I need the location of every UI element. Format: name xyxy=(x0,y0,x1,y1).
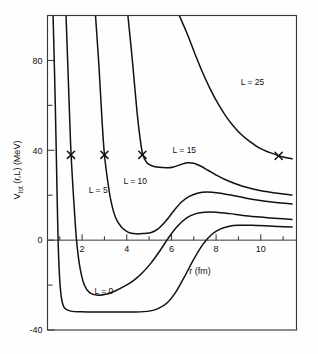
curve-label-l-0: L = 0 xyxy=(94,286,113,296)
y-axis-title: Vtot (r,L) (MeV) xyxy=(12,141,24,200)
x-tick-label: 2 xyxy=(80,244,85,254)
x-axis-tick-labels: 246810 xyxy=(80,244,266,254)
plot-frame xyxy=(48,16,297,331)
curve-label-l-5: L = 5 xyxy=(89,185,108,195)
curve-l-0 xyxy=(53,16,292,313)
curve-labels: L = 0L = 5L = 10L = 15L = 25 xyxy=(89,77,265,296)
chart-figure: 80400-40 246810 L = 0L = 5L = 10L = 15L … xyxy=(0,0,318,354)
potential-curves xyxy=(53,16,292,313)
curve-l-25 xyxy=(179,16,292,159)
x-tick-label: 6 xyxy=(169,244,174,254)
y-tick-label: 0 xyxy=(37,235,42,245)
x-tick-label: 4 xyxy=(124,244,129,254)
x-axis-title: r (fm) xyxy=(189,266,211,276)
y-tick-label: -40 xyxy=(29,325,42,335)
x-tick-label: 10 xyxy=(256,244,266,254)
curve-l-10 xyxy=(96,16,293,234)
y-tick-label: 40 xyxy=(32,146,42,156)
potential-energy-chart: 80400-40 246810 L = 0L = 5L = 10L = 15L … xyxy=(0,0,318,354)
curve-label-l-25: L = 25 xyxy=(241,77,265,87)
curve-label-l-10: L = 10 xyxy=(123,176,147,186)
curve-l-15 xyxy=(128,16,292,195)
x-axis-ticks xyxy=(60,234,283,240)
y-axis-tick-labels: 80400-40 xyxy=(29,56,42,336)
curve-label-l-15: L = 15 xyxy=(173,145,197,155)
y-axis-title-text: Vtot (r,L) (MeV) xyxy=(12,141,24,200)
x-tick-label: 8 xyxy=(214,244,219,254)
y-tick-label: 80 xyxy=(32,56,42,66)
y-axis-ticks xyxy=(48,60,55,330)
